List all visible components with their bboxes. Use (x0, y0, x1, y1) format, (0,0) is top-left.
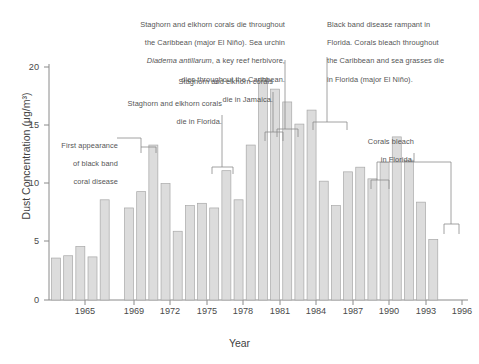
annotation-line-species: Diadema antillarum, a key reef herbivore… (120, 56, 285, 65)
y-tick-0: 0 (5, 295, 39, 305)
bar-1981 (271, 89, 280, 300)
x-tick-1987: 1987 (333, 306, 373, 316)
bar-1986 (331, 206, 340, 300)
bar-1964 (64, 256, 73, 300)
bar-1966 (88, 257, 97, 300)
bar-1974 (185, 206, 194, 300)
annotation-corals-bleach-florida: Corals bleach in Florida. (354, 128, 414, 173)
bar-1990 (380, 163, 389, 300)
x-tick-1990: 1990 (369, 306, 409, 316)
bar-1985 (319, 181, 328, 300)
bar-1970 (137, 192, 146, 300)
x-tick-1969: 1969 (114, 306, 154, 316)
annotation-line: die in Florida. (96, 117, 222, 126)
annotation-line: the Caribbean and sea grasses die (327, 56, 477, 65)
bar-1992 (404, 160, 413, 300)
bar-1993 (417, 202, 426, 300)
species-name: Diadema antillarum (147, 56, 212, 65)
bar-1983 (295, 124, 304, 300)
annotation-line: the Caribbean (major El Niño). Sea urchi… (120, 38, 285, 47)
bar-1979 (246, 145, 255, 300)
bar-1994 (429, 239, 438, 300)
annotation-line: Staghorn and elkhorn corals die througho… (120, 20, 285, 29)
x-tick-1993: 1993 (406, 306, 446, 316)
x-axis-ticks (85, 300, 462, 305)
bar-1973 (173, 231, 182, 300)
bar-1963 (52, 258, 61, 300)
bar-1987 (344, 172, 353, 300)
annotation-line: Corals bleach (354, 137, 414, 146)
bar-1978 (234, 200, 243, 300)
x-tick-1972: 1972 (150, 306, 190, 316)
bar-1982 (283, 102, 292, 300)
annotation-staghorn-elkhorn-caribbean: Staghorn and elkhorn corals die througho… (120, 11, 285, 93)
annotation-first-appearance-black-band: First appearance of black band coral dis… (28, 132, 118, 196)
annotation-line: of black band (28, 159, 118, 168)
annotation-line: First appearance (28, 141, 118, 150)
bar-1969 (125, 208, 134, 300)
annotation-black-band-rampant-florida: Black band disease rampant in Florida. C… (327, 11, 477, 93)
bar-1965 (76, 246, 85, 300)
x-tick-1965: 1965 (65, 306, 105, 316)
dust-concentration-bar-chart: 20 15 10 5 0 1965 1969 1972 1975 1978 19… (0, 0, 479, 364)
annotation-line: die in Jamaica. (147, 95, 273, 104)
bar-1972 (161, 184, 170, 301)
x-tick-1996: 1996 (442, 306, 479, 316)
x-tick-1975: 1975 (187, 306, 227, 316)
annotation-line: dies throughout the Caribbean. (120, 75, 285, 84)
bar-1975 (198, 203, 207, 300)
x-tick-1984: 1984 (296, 306, 336, 316)
annotation-line: Black band disease rampant in (327, 20, 477, 29)
bar-1967 (100, 200, 109, 300)
bar-1976 (210, 208, 219, 300)
x-tick-1978: 1978 (223, 306, 263, 316)
annotation-line: in Florida (major El Niño). (327, 75, 477, 84)
bar-1989 (368, 179, 377, 300)
x-axis-label: Year (0, 337, 479, 349)
annotation-line: coral disease (28, 177, 118, 186)
annotation-line-tail: , a key reef herbivore, (212, 56, 285, 65)
bar-1988 (356, 167, 365, 300)
annotation-line: Florida. Corals bleach throughout (327, 38, 477, 47)
bar-1984 (307, 110, 316, 300)
bar-1971 (149, 145, 158, 300)
x-tick-1981: 1981 (260, 306, 300, 316)
annotation-line: in Florida. (354, 155, 414, 164)
bar-1977 (222, 171, 231, 300)
